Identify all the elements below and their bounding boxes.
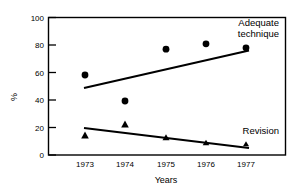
y-tick-label-0: 0 [40, 151, 45, 160]
chart-container: 100 80 60 40 20 0 % 1973 1974 1975 1976 … [0, 0, 302, 195]
y-tick-label-100: 100 [31, 14, 45, 23]
y-axis-tick-labels: 100 80 60 40 20 0 [31, 14, 45, 161]
y-tick-label-20: 20 [35, 124, 44, 133]
y-tick-label-60: 60 [35, 69, 44, 78]
data-point-adequate-1976 [203, 40, 210, 47]
x-axis-title: Years [155, 175, 178, 185]
revision-label: Revision [243, 125, 279, 136]
y-tick-label-80: 80 [35, 41, 44, 50]
y-axis-title: % [9, 93, 19, 101]
x-tick-label-1974: 1974 [116, 160, 134, 169]
data-point-adequate-1975 [163, 46, 170, 53]
adequate-technique-label-line1: Adequate [238, 17, 279, 28]
x-tick-label-1975: 1975 [157, 160, 175, 169]
x-tick-label-1976: 1976 [197, 160, 215, 169]
data-point-adequate-1977 [243, 44, 250, 51]
x-axis-tick-labels: 1973 1974 1975 1976 1977 [76, 160, 255, 169]
x-tick-label-1977: 1977 [237, 160, 255, 169]
data-point-adequate-1974 [122, 98, 129, 105]
adequate-technique-label-line2: technique [238, 28, 279, 39]
y-tick-label-40: 40 [35, 96, 44, 105]
scatter-plot: 100 80 60 40 20 0 % 1973 1974 1975 1976 … [0, 0, 302, 195]
x-tick-label-1973: 1973 [76, 160, 94, 169]
data-point-adequate-1973 [82, 72, 89, 79]
